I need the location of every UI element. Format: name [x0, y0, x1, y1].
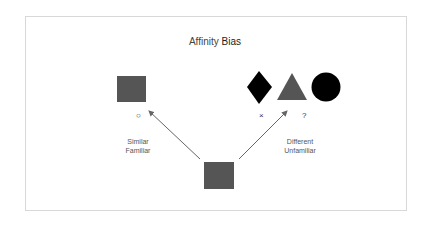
right-label: Different Unfamiliar [275, 137, 325, 155]
right-label-line1: Different [275, 137, 325, 146]
right-label-line2: Unfamiliar [275, 146, 325, 155]
left-label-line2: Familiar [118, 146, 158, 155]
black-diamond [247, 71, 272, 104]
bottom-square [204, 162, 234, 189]
left-square [117, 76, 146, 102]
cross-mark: × [259, 111, 264, 120]
question-mark: ? [302, 111, 306, 120]
left-label-line1: Similar [118, 137, 158, 146]
circle-mark: ○ [136, 111, 141, 120]
left-label: Similar Familiar [118, 137, 158, 155]
gray-triangle [277, 73, 307, 100]
black-circle [312, 73, 341, 102]
diagram-graphics [0, 0, 430, 225]
